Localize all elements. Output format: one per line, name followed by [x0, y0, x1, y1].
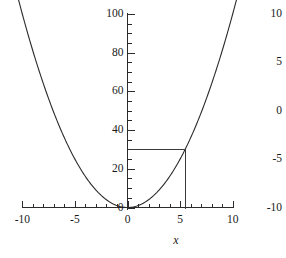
right-axis-tick-label: -5 [242, 153, 282, 165]
solution-guide-lines [129, 150, 186, 209]
y-axis-group [128, 13, 135, 210]
x-tick-label: -10 [2, 214, 42, 226]
right-axis-tick-label: 10 [242, 8, 282, 20]
y-tick-label: 20 [84, 163, 124, 175]
y-tick-label: 80 [84, 47, 124, 59]
x-tick-label: -5 [55, 214, 95, 226]
right-axis-tick-label: -10 [242, 202, 282, 214]
right-axis-tick-label: 5 [242, 56, 282, 68]
y-tick-label: 0 [84, 202, 124, 214]
x-tick-label: 10 [213, 214, 253, 226]
y-axis-minor-ticks [128, 15, 132, 209]
x-tick-label: 0 [108, 214, 148, 226]
chart-figure: -10-50510 020406080100 1050-5-10 x [0, 0, 286, 258]
right-axis-tick-label: 0 [242, 105, 282, 117]
y-tick-label: 100 [84, 8, 124, 20]
y-tick-label: 40 [84, 124, 124, 136]
x-axis-title: x [152, 233, 200, 248]
y-tick-label: 60 [84, 85, 124, 97]
x-tick-label: 5 [160, 214, 200, 226]
